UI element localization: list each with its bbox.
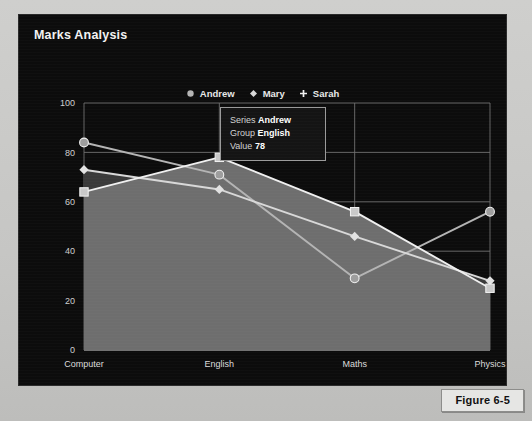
y-axis-tick-label: 20 (65, 296, 75, 306)
x-axis-tick-label: English (205, 359, 235, 369)
y-axis-tick-label: 100 (60, 98, 75, 108)
x-axis-tick-label: Computer (64, 359, 104, 369)
data-point-marker[interactable] (350, 207, 358, 215)
y-axis-tick-label: 60 (65, 197, 75, 207)
x-axis-tick-label: Physics (474, 359, 506, 369)
data-point-marker[interactable] (486, 284, 494, 292)
data-point-marker[interactable] (215, 170, 224, 179)
data-point-marker[interactable] (486, 207, 495, 216)
tooltip-value-value: 78 (255, 141, 265, 151)
plot-area: 020406080100 ComputerEnglishMathsPhysics (18, 14, 507, 386)
y-axis-tick-label: 40 (65, 246, 75, 256)
tooltip-series-key: Series (230, 115, 256, 125)
chart-tooltip: Series Andrew Group English Value 78 (220, 107, 326, 161)
y-axis-tick-labels: 020406080100 (60, 98, 75, 355)
tooltip-group-key: Group (230, 128, 255, 138)
chart-panel: Marks Analysis Andrew Mary Sarah (18, 14, 507, 386)
tooltip-series-row: Series Andrew (230, 114, 316, 127)
data-point-marker[interactable] (80, 138, 89, 147)
x-axis-tick-labels: ComputerEnglishMathsPhysics (64, 359, 506, 369)
tooltip-series-value: Andrew (258, 115, 291, 125)
tooltip-value-key: Value (230, 141, 252, 151)
data-point-marker[interactable] (80, 188, 88, 196)
x-axis-tick-label: Maths (342, 359, 367, 369)
tooltip-group-row: Group English (230, 127, 316, 140)
y-axis-tick-label: 80 (65, 148, 75, 158)
page-background: Marks Analysis Andrew Mary Sarah (0, 0, 532, 421)
data-point-marker[interactable] (350, 274, 359, 283)
chart-svg: 020406080100 ComputerEnglishMathsPhysics (18, 14, 507, 386)
y-axis-tick-label: 0 (70, 345, 75, 355)
tooltip-value-row: Value 78 (230, 140, 316, 153)
tooltip-group-value: English (258, 128, 291, 138)
figure-caption: Figure 6-5 (441, 389, 524, 412)
